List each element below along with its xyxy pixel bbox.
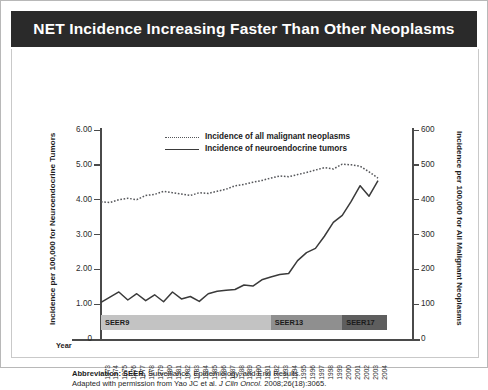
- y-left-tick-label: 4.00: [62, 195, 92, 204]
- y-axis-right-label: Incidence per 100,000 for All Malignant …: [455, 131, 464, 325]
- seer-band-seer13: SEER13: [271, 315, 342, 330]
- footnote-source-post: 2008;26(18):3065.: [262, 379, 326, 388]
- plot-area: [101, 130, 378, 339]
- footnote-line-2: Adapted with permission from Yao JC et a…: [72, 379, 472, 389]
- y-right-tick-label: 100: [421, 299, 451, 308]
- footnote-abbrev-label: Abbreviation: SEER,: [72, 369, 146, 378]
- y-axis-left-label: Incidence per 100,000 for Neuroendocrine…: [48, 133, 57, 325]
- seer-band-seer9: SEER9: [101, 315, 271, 330]
- series-line-net: [101, 181, 378, 303]
- y-right-tick-label: 300: [421, 230, 451, 239]
- seer-band-label: SEER17: [342, 318, 374, 327]
- y-right-tick-label: 400: [421, 195, 451, 204]
- y-left-tick-label: 3.00: [62, 230, 92, 239]
- y-right-tick-mark: [412, 234, 419, 235]
- y-right-tick-mark: [412, 339, 419, 340]
- footnote-source-pre: Adapted with permission from Yao JC et a…: [72, 379, 219, 388]
- y-left-tick-mark: [94, 130, 101, 131]
- x-axis-label: Year: [56, 341, 72, 350]
- seer-band-seer17: SEER17: [342, 315, 387, 330]
- footnote: Abbreviation: SEER, Surveillance, Epidem…: [72, 369, 472, 390]
- seer-band-label: SEER9: [101, 318, 129, 327]
- y-left-tick-label: 1.00: [62, 299, 92, 308]
- data-series-svg: [101, 130, 378, 339]
- y-left-tick-mark: [94, 164, 101, 165]
- y-right-tick-mark: [412, 269, 419, 270]
- y-left-tick-mark: [94, 339, 101, 340]
- y-left-tick-label: 2.00: [62, 264, 92, 273]
- y-right-tick-mark: [412, 304, 419, 305]
- series-line-malignant: [101, 164, 378, 202]
- y-left-tick-mark: [94, 234, 101, 235]
- page-title: NET Incidence Increasing Faster Than Oth…: [33, 20, 454, 38]
- footnote-abbrev-text: Surveillance, Epidemiology, and End Resu…: [146, 369, 301, 378]
- y-left-tick-label: 5.00: [62, 160, 92, 169]
- footnote-line-1: Abbreviation: SEER, Surveillance, Epidem…: [72, 369, 472, 379]
- seer-band-label: SEER13: [271, 318, 303, 327]
- seer-registry-bands: SEER9SEER13SEER17: [101, 315, 378, 330]
- y-right-tick-label: 0: [421, 334, 451, 343]
- y-right-tick-mark: [412, 164, 419, 165]
- y-left-tick-mark: [94, 304, 101, 305]
- x-axis-ticks: 1973197419751976197719781979198019811982…: [101, 341, 378, 367]
- footnote-journal: J Clin Oncol.: [219, 379, 262, 388]
- y-left-tick-mark: [94, 269, 101, 270]
- chart-panel: 6.005.004.003.002.001.000 60050040030020…: [11, 49, 479, 358]
- y-right-tick-label: 600: [421, 125, 451, 134]
- y-right-tick-label: 200: [421, 264, 451, 273]
- y-left-tick-mark: [94, 199, 101, 200]
- y-right-tick-mark: [412, 199, 419, 200]
- y-right-tick-mark: [412, 130, 419, 131]
- chart-title-bar: NET Incidence Increasing Faster Than Oth…: [11, 11, 477, 47]
- y-right-tick-label: 500: [421, 160, 451, 169]
- y-left-tick-label: 6.00: [62, 125, 92, 134]
